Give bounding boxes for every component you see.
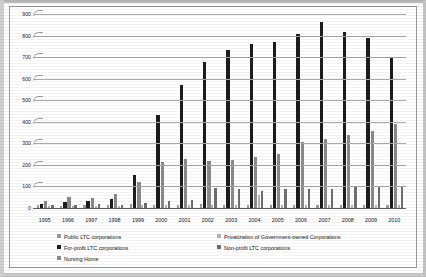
bar (86, 201, 89, 208)
bar (301, 142, 304, 208)
legend-swatch-icon (217, 245, 221, 249)
bar (343, 32, 346, 208)
bar (184, 159, 187, 208)
x-axis-tick-label: 2000 (150, 216, 173, 224)
page-edge-bottom (0, 273, 426, 277)
bar (214, 188, 216, 208)
y-axis: 9008007006005004003002001000 (3, 14, 31, 208)
y-axis-tick-label: 200 (5, 162, 31, 168)
bar-group (243, 14, 266, 208)
x-axis-tick-label: 2008 (336, 216, 359, 224)
bar (250, 44, 253, 208)
x-axis-tick-label: 2001 (173, 216, 196, 224)
bar-group (383, 14, 406, 208)
gridline (33, 14, 406, 15)
x-axis-tick-label: 2005 (266, 216, 289, 224)
chart-figure: 9008007006005004003002001000 19951996199… (0, 0, 426, 277)
bar-group (33, 14, 56, 208)
bar (191, 200, 193, 208)
bar (156, 115, 159, 208)
bar (401, 186, 403, 208)
bar (394, 124, 397, 208)
gridline (33, 36, 406, 37)
legend-label: For-profit LTC corporations (64, 244, 128, 252)
gridline (33, 165, 406, 166)
chart-legend: Public LTC corporationsFor-profit LTC co… (33, 232, 406, 264)
x-axis-tick-label: 2009 (359, 216, 382, 224)
bar-group (359, 14, 382, 208)
gridline-stub (33, 118, 43, 124)
bar (390, 57, 393, 208)
bar (67, 197, 70, 208)
bar-group (266, 14, 289, 208)
x-axis-tick-label: 2002 (196, 216, 219, 224)
gridline-stub (33, 10, 43, 16)
bar (378, 187, 380, 208)
bar (161, 162, 164, 208)
legend-swatch-icon (217, 234, 221, 238)
bar-group (313, 14, 336, 208)
bar (366, 38, 369, 208)
gridline (33, 100, 406, 101)
legend-label: Privatization of Government-owned Corpor… (224, 233, 341, 241)
x-axis-tick-label: 2003 (220, 216, 243, 224)
legend-item: For-profit LTC corporations (57, 243, 128, 252)
bar (347, 135, 350, 208)
gridline-stub (33, 75, 43, 81)
x-axis-tick-label: 2007 (313, 216, 336, 224)
bar (324, 139, 327, 208)
x-axis-tick-label: 2010 (383, 216, 406, 224)
x-axis-tick-label: 1995 (33, 216, 56, 224)
x-axis-line (33, 208, 406, 209)
bar (168, 201, 170, 208)
legend-swatch-icon (57, 256, 61, 260)
gridline (33, 143, 406, 144)
gridline (33, 57, 406, 58)
legend-item: Privatization of Government-owned Corpor… (217, 232, 341, 241)
x-axis-tick-label: 1998 (103, 216, 126, 224)
bar (114, 194, 117, 208)
bar-group (126, 14, 149, 208)
bar-group (173, 14, 196, 208)
bar (308, 189, 310, 208)
legend-swatch-icon (57, 245, 61, 249)
bar-group (289, 14, 312, 208)
gridline-stub (33, 139, 43, 145)
legend-item: Nursing Home (57, 254, 98, 263)
legend-item: Non-profit LTC corporations (217, 243, 290, 252)
gridline-stub (33, 161, 43, 167)
bar (110, 199, 113, 208)
legend-item: Public LTC corporations (57, 232, 121, 241)
gridline-stub (33, 32, 43, 38)
bar-group (56, 14, 79, 208)
plot-area (33, 14, 406, 208)
bar-group (103, 14, 126, 208)
bar (91, 198, 94, 208)
bar (277, 154, 280, 208)
bar (44, 201, 47, 208)
y-axis-tick-label: 600 (5, 76, 31, 82)
bar-group (196, 14, 219, 208)
y-axis-tick-label: 400 (5, 119, 31, 125)
legend-label: Nursing Home (64, 255, 98, 263)
x-axis-labels: 1995199619971998199920002001200220032004… (33, 216, 406, 226)
legend-label: Public LTC corporations (64, 233, 121, 241)
x-axis-tick-label: 1999 (126, 216, 149, 224)
y-axis-tick-label: 0 (5, 205, 31, 211)
x-axis-tick-label: 1996 (56, 216, 79, 224)
y-axis-tick-label: 500 (5, 97, 31, 103)
bar (180, 85, 183, 208)
x-axis-tick-label: 1997 (80, 216, 103, 224)
x-axis-tick-label: 2004 (243, 216, 266, 224)
bar (261, 191, 263, 208)
bar (258, 195, 260, 208)
bar (354, 187, 356, 208)
y-axis-tick-label: 100 (5, 183, 31, 189)
bar-group (150, 14, 173, 208)
legend-label: Non-profit LTC corporations (224, 244, 290, 252)
gridline (33, 186, 406, 187)
bar (273, 42, 276, 208)
bar (133, 175, 136, 208)
bar (284, 189, 286, 208)
bar (231, 160, 234, 208)
